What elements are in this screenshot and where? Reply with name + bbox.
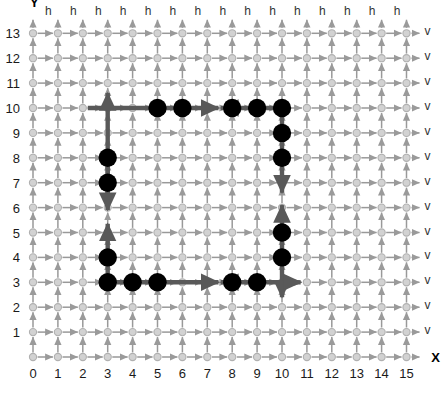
grid-node [303,204,310,211]
grid-node [328,353,335,360]
grid-node [303,80,310,87]
grid-node [29,204,36,211]
grid-node [328,254,335,261]
grid-node [254,30,261,37]
grid-node [403,279,410,286]
x-tick-label-13: 13 [349,366,363,381]
grid-node [54,204,61,211]
grid-node [154,80,161,87]
grid-node [303,154,310,161]
grid-node [129,353,136,360]
edge-label-v-8: v [425,124,431,138]
grid-node [54,104,61,111]
grid-node [403,329,410,336]
edge-label-h-6: h [194,4,201,18]
path-marker-node [273,223,291,241]
path-marker-node [173,99,191,117]
grid-node [303,229,310,236]
grid-node [403,304,410,311]
grid-node [179,80,186,87]
grid-node [254,129,261,136]
grid-node [79,279,86,286]
path-marker-node [273,124,291,142]
edge-label-v-3: v [425,248,431,262]
grid-node [79,179,86,186]
x-tick-label-11: 11 [300,366,314,381]
grid-node [403,179,410,186]
grid-node [129,254,136,261]
grid-node [303,55,310,62]
path-marker-node [223,273,241,291]
grid-node [378,104,385,111]
y-tick-label-3: 3 [13,275,20,290]
y-tick-label-7: 7 [13,176,20,191]
grid-node [378,154,385,161]
grid-node [278,353,285,360]
grid-node [353,329,360,336]
grid-node [79,104,86,111]
grid-node [79,55,86,62]
grid-node [378,353,385,360]
grid-node [328,30,335,37]
grid-node [54,229,61,236]
grid-node [54,154,61,161]
grid-node [29,279,36,286]
grid-node [29,129,36,136]
grid-node [129,204,136,211]
grid-node [179,329,186,336]
grid-node [129,129,136,136]
grid-node [229,129,236,136]
grid-node [278,304,285,311]
grid-node [378,129,385,136]
edge-label-h-11: h [319,4,326,18]
y-tick-label-11: 11 [7,76,21,91]
grid-node [229,304,236,311]
grid-node [79,329,86,336]
grid-node [378,30,385,37]
grid-node [129,80,136,87]
grid-node [129,30,136,37]
grid-node [254,80,261,87]
grid-node [328,204,335,211]
grid-node [204,55,211,62]
grid-node [353,204,360,211]
grid-node [129,304,136,311]
grid-node [29,254,36,261]
edge-label-h-14: h [394,4,401,18]
grid-node [29,329,36,336]
grid-node [204,329,211,336]
grid-node [104,80,111,87]
grid-node [328,304,335,311]
grid-node [204,353,211,360]
grid-node [154,254,161,261]
grid-node [328,129,335,136]
grid-node [229,179,236,186]
x-tick-label-4: 4 [129,366,136,381]
grid-node [229,329,236,336]
grid-node [54,179,61,186]
grid-node [254,304,261,311]
grid-node [79,304,86,311]
path-marker-node [99,149,117,167]
path-marker-node [99,174,117,192]
grid-node [79,154,86,161]
grid-node [129,329,136,336]
grid-edges-layer [33,20,420,357]
grid-node [403,154,410,161]
grid-node [378,229,385,236]
lattice-grid-svg: 012345678910111213141513121110987654321Y… [0,0,448,395]
grid-node [179,304,186,311]
y-tick-label-1: 1 [13,325,20,340]
grid-node [179,129,186,136]
grid-node [54,353,61,360]
grid-node [403,129,410,136]
grid-node [29,154,36,161]
grid-node [179,30,186,37]
grid-node [54,304,61,311]
grid-node [328,154,335,161]
grid-node [54,30,61,37]
grid-diagram-canvas: 012345678910111213141513121110987654321Y… [0,0,448,395]
grid-node [129,154,136,161]
grid-node [154,353,161,360]
grid-node [79,129,86,136]
